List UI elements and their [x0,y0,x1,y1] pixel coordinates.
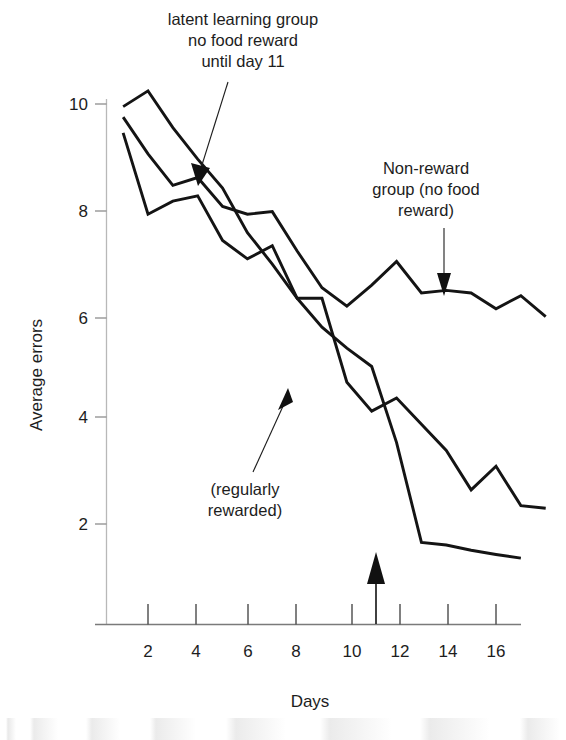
non-reward-annotation-line-3: reward) [398,201,454,219]
x-tick-label-10: 10 [343,642,362,661]
non-reward-annotation: Non-reward group (no food reward) [372,159,479,296]
x-tick-label-14: 14 [439,642,458,661]
regularly-rewarded-annotation: (regularly rewarded) [208,388,293,519]
day-11-marker-arrowhead [367,552,385,584]
day-11-marker [367,552,385,624]
y-tick-label-8: 8 [79,202,88,221]
latent-annotation-line-1: latent learning group [168,10,318,28]
x-tick-label-6: 6 [243,642,252,661]
x-tick-label-12: 12 [391,642,410,661]
latent-annotation-line-2: no food reward [188,31,298,49]
y-tick-label-2: 2 [79,515,88,534]
regular-annotation-arrowhead [278,388,293,410]
chart-figure: 10 8 6 4 2 Average errors 2 4 6 8 10 12 … [0,0,566,740]
x-tick-label-4: 4 [191,642,200,661]
x-axis-title: Days [291,692,330,711]
regular-annotation-line-2: rewarded) [208,501,282,519]
non-reward-annotation-line-1: Non-reward [383,159,469,177]
y-axis-title: Average errors [27,319,46,431]
x-tick-label-8: 8 [291,642,300,661]
x-axis: 2 4 6 8 10 12 14 16 Days [95,604,521,711]
y-tick-label-10: 10 [69,95,88,114]
x-tick-label-16: 16 [487,642,506,661]
regular-annotation-leader [253,404,284,472]
y-tick-label-6: 6 [79,309,88,328]
latent-annotation-leader [201,82,228,168]
latent-learning-annotation: latent learning group no food reward unt… [168,10,318,186]
regular-annotation-line-1: (regularly [211,480,281,498]
x-tick-label-2: 2 [143,642,152,661]
latent-annotation-line-3: until day 11 [201,52,284,70]
series-line-regularly-rewarded [123,133,546,508]
line-chart-canvas: 10 8 6 4 2 Average errors 2 4 6 8 10 12 … [0,0,566,740]
y-tick-label-4: 4 [79,408,88,427]
non-reward-annotation-line-2: group (no food [372,180,479,198]
series-group [123,91,546,558]
y-axis: 10 8 6 4 2 Average errors [27,95,107,624]
